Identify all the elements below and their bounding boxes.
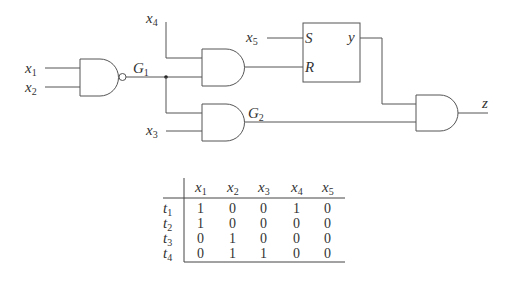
svg-text:0: 0	[260, 216, 267, 231]
svg-text:1: 1	[229, 231, 236, 246]
svg-text:0: 0	[293, 216, 300, 231]
input-label-x3: x3	[145, 122, 158, 140]
input-label-x2: x2	[24, 79, 37, 97]
wire-x4	[166, 22, 202, 58]
svg-text:1: 1	[197, 216, 204, 231]
svg-text:0: 0	[260, 231, 267, 246]
output-label-z: z	[481, 95, 488, 111]
table-header-x2: x2	[226, 179, 239, 197]
svg-text:0: 0	[229, 201, 236, 216]
nand-gate-g1	[80, 59, 126, 96]
input-label-x1: x1	[24, 60, 37, 78]
flipflop-y-label: y	[346, 29, 355, 45]
svg-text:0: 0	[197, 246, 204, 261]
svg-text:0: 0	[324, 246, 331, 261]
table-header-x3: x3	[257, 179, 270, 197]
input-sequence-table: x1 x2 x3 x4 x5 t1 1 0 0 1 0 t2 1 0 0 0 0…	[163, 178, 345, 263]
and-gate-output	[416, 95, 458, 131]
svg-text:1: 1	[293, 201, 300, 216]
logic-circuit-diagram: x1 x2 x4 x3 x5 G1 G2 S R y z x1 x2	[0, 0, 512, 281]
svg-text:0: 0	[229, 216, 236, 231]
wire-g1-to-g2	[166, 77, 202, 113]
table-header-x4: x4	[290, 179, 303, 197]
wire-y	[360, 38, 416, 104]
flipflop-s-label: S	[305, 30, 313, 46]
gate-label-g2: G2	[248, 105, 264, 123]
and-gate-top	[202, 49, 245, 86]
input-label-x4: x4	[145, 10, 158, 28]
svg-text:0: 0	[324, 201, 331, 216]
svg-text:0: 0	[324, 216, 331, 231]
svg-text:0: 0	[324, 231, 331, 246]
inverter-bubble-icon	[119, 74, 126, 81]
table-row: t2 1 0 0 0 0	[163, 215, 331, 233]
table-row: t3 0 1 0 0 0	[163, 230, 331, 248]
flipflop-r-label: R	[304, 59, 314, 75]
svg-text:0: 0	[293, 246, 300, 261]
svg-text:0: 0	[260, 201, 267, 216]
table-row: t1 1 0 0 1 0	[163, 200, 331, 218]
and-gate-g2	[202, 104, 245, 141]
table-header-x1: x1	[194, 179, 207, 197]
table-header-x5: x5	[321, 179, 334, 197]
svg-text:0: 0	[293, 231, 300, 246]
input-label-x5: x5	[245, 29, 258, 47]
svg-text:0: 0	[197, 231, 204, 246]
svg-text:1: 1	[229, 246, 236, 261]
table-row: t4 0 1 1 0 0	[163, 245, 331, 263]
svg-text:1: 1	[197, 201, 204, 216]
svg-text:1: 1	[260, 246, 267, 261]
gate-label-g1: G1	[133, 60, 149, 78]
